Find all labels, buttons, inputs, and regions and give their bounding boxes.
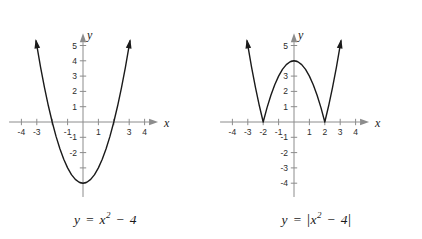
y-tick-label: 2 bbox=[283, 86, 288, 96]
curve-left-arrowhead bbox=[34, 39, 40, 49]
absolute-value-plot: xy-4-3-2-112345321-1-2-3-4 bbox=[211, 0, 422, 210]
y-axis-label: y bbox=[86, 28, 93, 42]
y-tick-label: -3 bbox=[280, 163, 288, 173]
absolute-value-panel: xy-4-3-2-112345321-1-2-3-4 y = |x2 − 4| bbox=[211, 0, 422, 239]
x-tick-label: 3 bbox=[127, 127, 132, 137]
x-axis-arrowhead bbox=[360, 119, 369, 125]
equation-exponent: 2 bbox=[106, 210, 111, 220]
x-tick-label: 3 bbox=[338, 127, 343, 137]
x-axis-label: x bbox=[374, 116, 381, 130]
absolute-value-equation-caption: y = |x2 − 4| bbox=[211, 210, 422, 228]
y-tick-label: -4 bbox=[280, 178, 288, 188]
y-tick-label: 1 bbox=[283, 102, 288, 112]
y-axis-arrowhead bbox=[80, 33, 86, 42]
y-tick-label: 4 bbox=[72, 56, 77, 66]
curve-left-arrowhead bbox=[245, 39, 251, 49]
parabola-panel: xy-4-3-113454321-1-2 y = x2 − 4 bbox=[0, 0, 211, 239]
x-tick-label: -3 bbox=[33, 127, 41, 137]
abs-bar-close: | bbox=[348, 211, 351, 227]
x-tick-label: -4 bbox=[18, 127, 26, 137]
equation-constant: 4 bbox=[130, 212, 137, 227]
x-tick-label: 4 bbox=[353, 127, 358, 137]
equation-equals: = bbox=[84, 212, 96, 227]
x-tick-label: -2 bbox=[259, 127, 267, 137]
equation-minus: − bbox=[115, 212, 127, 227]
x-tick-label: -4 bbox=[229, 127, 237, 137]
y-tick-label: 2 bbox=[72, 86, 77, 96]
y-tick-label: -1 bbox=[69, 132, 77, 142]
equation-minus: − bbox=[326, 212, 338, 227]
x-axis-arrowhead bbox=[149, 119, 158, 125]
y-tick-label: 5 bbox=[283, 41, 288, 51]
y-tick-label: 3 bbox=[283, 71, 288, 81]
y-tick-label: 5 bbox=[72, 41, 77, 51]
y-axis-label: y bbox=[297, 28, 304, 42]
parabola-equation-caption: y = x2 − 4 bbox=[0, 210, 211, 228]
x-tick-label: 1 bbox=[96, 127, 101, 137]
equation-constant: 4 bbox=[341, 212, 348, 227]
equation-lhs: y bbox=[74, 212, 80, 227]
x-tick-label: 1 bbox=[307, 127, 312, 137]
y-tick-label: -1 bbox=[280, 132, 288, 142]
x-tick-label: 2 bbox=[322, 127, 327, 137]
curve-right-arrowhead bbox=[126, 39, 132, 49]
y-tick-label: -2 bbox=[280, 148, 288, 158]
equation-exponent: 2 bbox=[317, 210, 322, 220]
parabola-plot: xy-4-3-113454321-1-2 bbox=[0, 0, 211, 210]
equation-lhs: y bbox=[282, 212, 288, 227]
x-axis-label: x bbox=[163, 116, 170, 130]
y-tick-label: 1 bbox=[72, 102, 77, 112]
y-tick-label: -2 bbox=[69, 148, 77, 158]
equation-equals: = bbox=[292, 212, 304, 227]
curve-right-arrowhead bbox=[337, 39, 343, 49]
y-tick-label: 3 bbox=[72, 71, 77, 81]
x-tick-label: 4 bbox=[142, 127, 147, 137]
y-axis-arrowhead bbox=[291, 33, 297, 42]
two-graph-figure: xy-4-3-113454321-1-2 y = x2 − 4 xy-4-3-2… bbox=[0, 0, 422, 239]
x-tick-label: -3 bbox=[244, 127, 252, 137]
